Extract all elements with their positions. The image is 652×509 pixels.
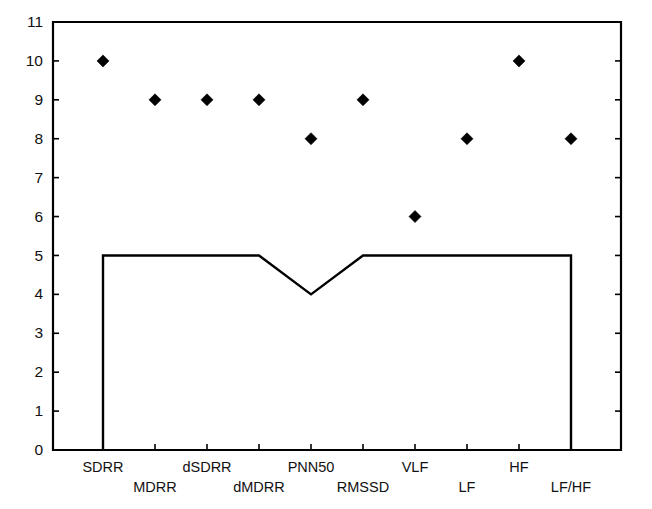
x-tick-label: LF xyxy=(459,479,476,495)
y-tick-label: 11 xyxy=(27,13,43,30)
y-tick-label: 3 xyxy=(34,324,43,341)
y-tick-label: 6 xyxy=(34,208,43,225)
y-tick-label: 8 xyxy=(34,130,43,147)
y-tick-label: 10 xyxy=(26,52,44,69)
x-tick-label: RMSSD xyxy=(337,479,389,495)
chart-figure: 01234567891011 SDRRMDRRdSDRRdMDRRPNN50RM… xyxy=(0,0,652,509)
x-tick-label: HF xyxy=(509,459,528,475)
y-tick-label: 5 xyxy=(34,247,43,264)
y-tick-label: 4 xyxy=(34,285,43,302)
y-tick-label: 1 xyxy=(34,402,43,419)
x-tick-label: dMDRR xyxy=(233,479,285,495)
x-tick-label: dSDRR xyxy=(182,459,231,475)
y-tick-label: 2 xyxy=(34,363,43,380)
scatter-step-chart: 01234567891011 SDRRMDRRdSDRRdMDRRPNN50RM… xyxy=(0,0,652,509)
x-tick-label: MDRR xyxy=(133,479,177,495)
y-tick-label: 0 xyxy=(34,441,43,458)
y-tick-label: 7 xyxy=(34,169,43,186)
x-tick-label: PNN50 xyxy=(288,459,335,475)
x-tick-label: VLF xyxy=(402,459,429,475)
x-tick-label: SDRR xyxy=(82,459,123,475)
y-tick-label: 9 xyxy=(34,91,43,108)
x-tick-label: LF/HF xyxy=(551,479,591,495)
